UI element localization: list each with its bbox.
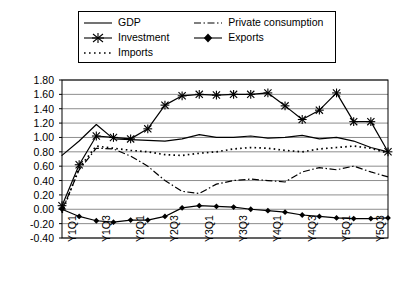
x-axis-tick-label: Y1Q1 xyxy=(67,215,78,242)
x-axis-tick-label: Y5Q3 xyxy=(375,215,386,242)
y-axis-tick-label: -0.40 xyxy=(20,233,54,244)
series-imports xyxy=(62,146,388,213)
y-axis-tick-label: 1.00 xyxy=(20,132,54,143)
y-axis-tick-label: 1.80 xyxy=(20,75,54,86)
series-private-consumption xyxy=(62,148,388,210)
y-axis-tick-label: 1.40 xyxy=(20,104,54,115)
x-axis-tick-label: Y1Q3 xyxy=(101,215,112,242)
y-axis-tick-label: -0.20 xyxy=(20,219,54,230)
y-axis-tick-label: 0.60 xyxy=(20,161,54,172)
x-axis-tick-label: Y5Q1 xyxy=(341,215,352,242)
y-axis-tick-label: 0.20 xyxy=(20,190,54,201)
x-axis-tick-label: Y3Q3 xyxy=(238,215,249,242)
y-axis-tick-label: 0.40 xyxy=(20,176,54,187)
chart-figure: GDP Private consumption xyxy=(0,0,402,285)
y-axis-tick-label: 1.60 xyxy=(20,89,54,100)
x-axis-tick-label: Y4Q3 xyxy=(307,215,318,242)
y-axis-tick-label: 1.20 xyxy=(20,118,54,129)
x-axis-tick-label: Y2Q3 xyxy=(169,215,180,242)
y-axis-tick-label: 0.00 xyxy=(20,204,54,215)
x-axis-tick-label: Y3Q1 xyxy=(204,215,215,242)
chart-canvas xyxy=(0,0,402,285)
y-axis-tick-label: 0.80 xyxy=(20,147,54,158)
x-axis-tick-label: Y4Q1 xyxy=(272,215,283,242)
x-axis-tick-label: Y2Q1 xyxy=(135,215,146,242)
plot-area: 1.801.601.401.201.000.800.600.400.200.00… xyxy=(0,0,402,285)
